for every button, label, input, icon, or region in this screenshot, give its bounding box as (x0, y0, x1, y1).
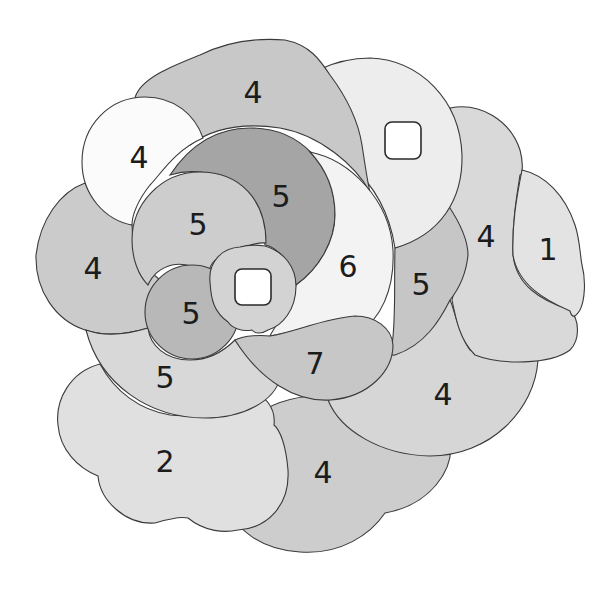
blank-answer-cell[interactable] (385, 122, 421, 159)
blank-answer-cell[interactable] (235, 269, 271, 305)
shade-puzzle-canvas: 4 2 4 4 1 5 4 4 5 (0, 0, 614, 593)
